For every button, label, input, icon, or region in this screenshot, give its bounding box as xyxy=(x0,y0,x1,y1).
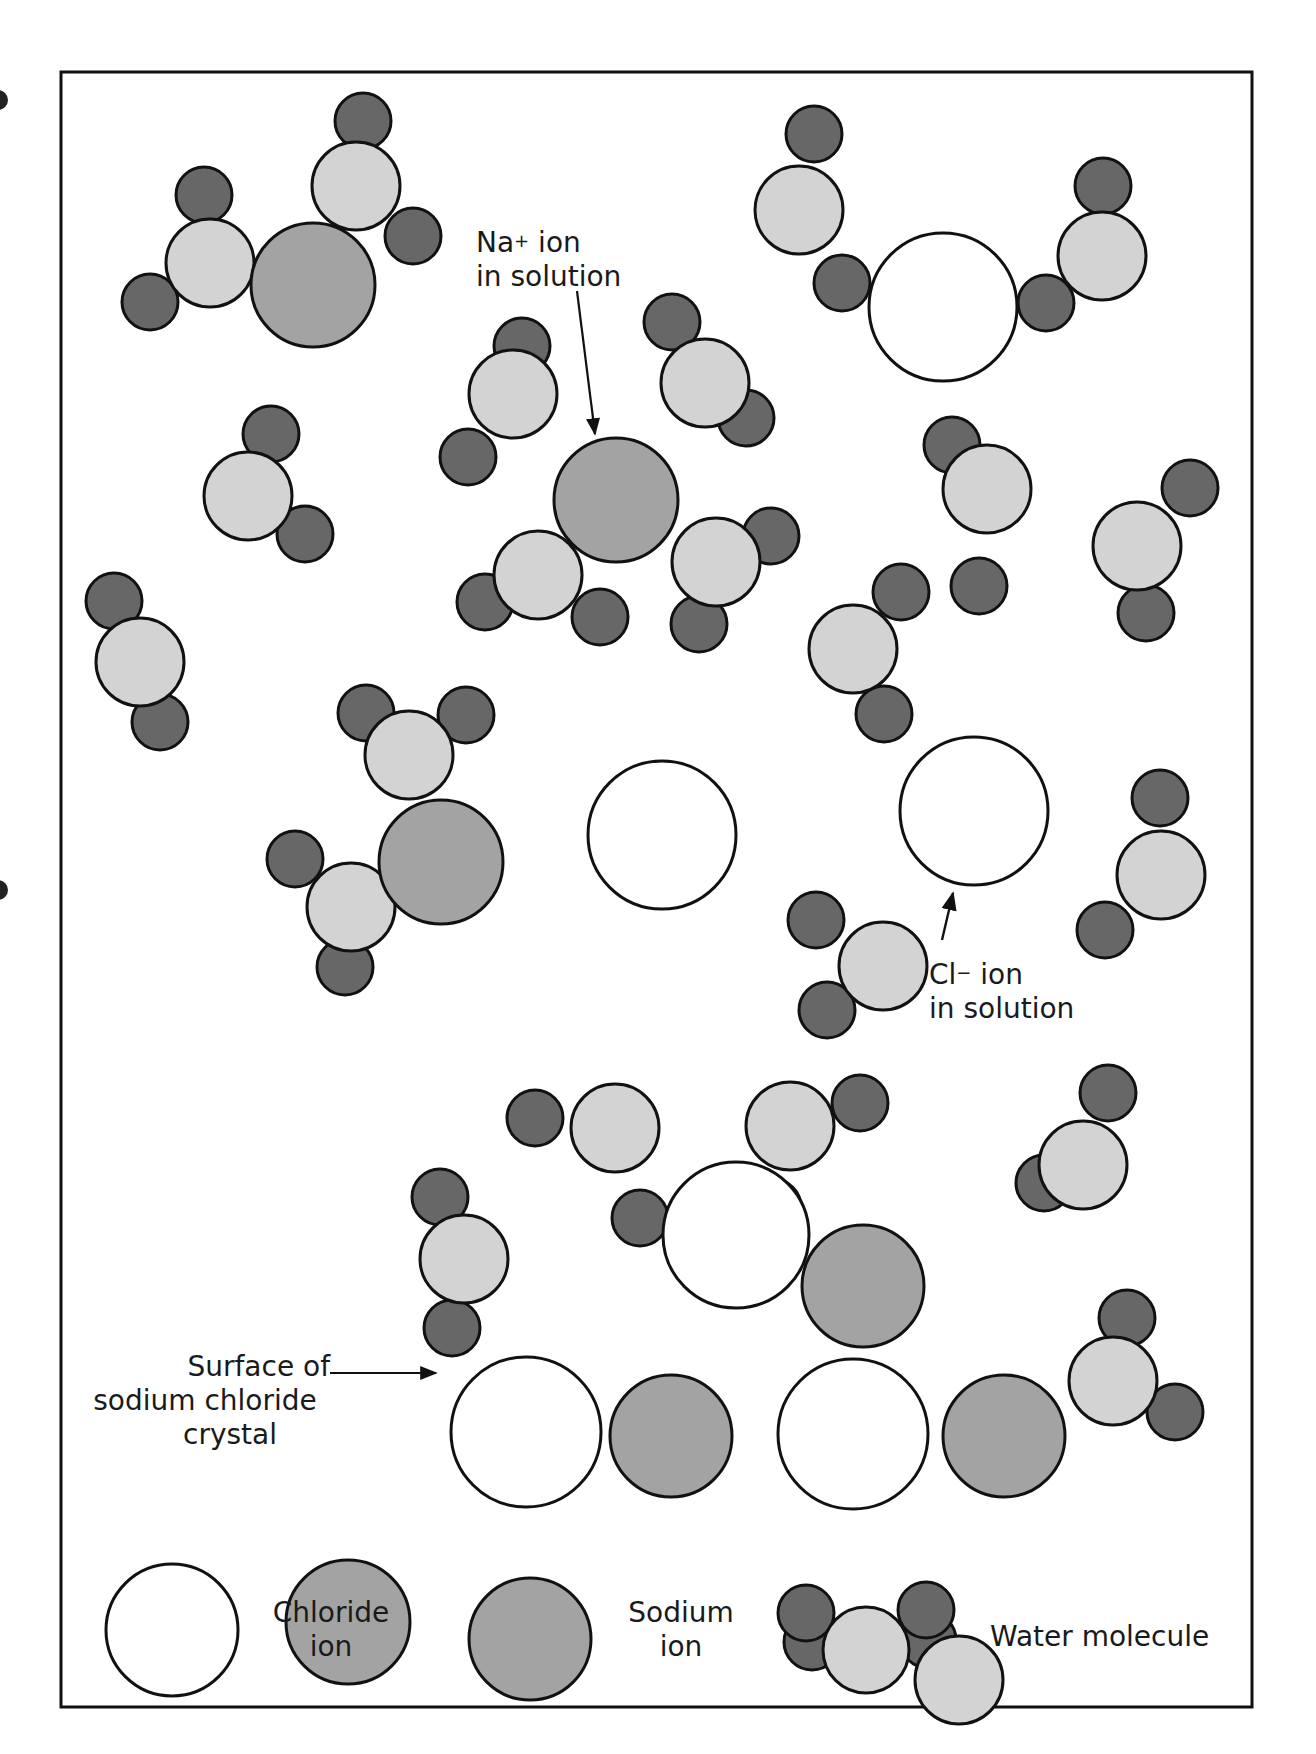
hydrogen-atom xyxy=(440,429,496,485)
hydrogen-atom xyxy=(788,892,844,948)
hydrogen-atom xyxy=(1075,158,1131,214)
chloride-ion xyxy=(869,233,1017,381)
nacl-dissolution-diagram xyxy=(0,0,1316,1754)
hydrogen-atom xyxy=(267,831,323,887)
hydrogen-atom xyxy=(1132,770,1188,826)
hydrogen-atom xyxy=(424,1300,480,1356)
na-ion-label: Na+ ion in solution xyxy=(476,226,621,294)
oxygen-atom xyxy=(494,531,582,619)
oxygen-atom xyxy=(571,1084,659,1172)
oxygen-atom xyxy=(204,452,292,540)
oxygen-atom xyxy=(1058,212,1146,300)
hydrogen-atom xyxy=(1118,585,1174,641)
oxygen-atom xyxy=(746,1082,834,1170)
hydrogen-atom xyxy=(1077,902,1133,958)
oxygen-atom xyxy=(96,618,184,706)
oxygen-atom xyxy=(661,339,749,427)
hydrogen-atom xyxy=(951,558,1007,614)
oxygen-atom xyxy=(1093,502,1181,590)
hydrogen-atom xyxy=(1162,460,1218,516)
hydrogen-atom xyxy=(832,1075,888,1131)
oxygen-atom xyxy=(469,350,557,438)
hydrogen-atom xyxy=(612,1190,668,1246)
oxygen-atom xyxy=(166,219,254,307)
crystal-surface-label: Surface of sodium chloride crystal xyxy=(130,1350,330,1452)
chloride-ion xyxy=(663,1162,809,1308)
oxygen-atom xyxy=(672,518,760,606)
hydrogen-atom xyxy=(1080,1065,1136,1121)
hydrogen-atom xyxy=(385,208,441,264)
oxygen-atom xyxy=(943,445,1031,533)
oxygen-atom xyxy=(1069,1337,1157,1425)
diagram-canvas: Na+ ion in solution Cl− ion in solution … xyxy=(0,0,1316,1754)
sodium-ion xyxy=(802,1225,924,1347)
cl-ion-arrow xyxy=(942,893,953,940)
hydrogen-atom xyxy=(786,106,842,162)
sodium-ion xyxy=(610,1375,732,1497)
hydrogen-atom xyxy=(176,167,232,223)
chloride-ion xyxy=(588,761,736,909)
hydrogen-atom xyxy=(873,564,929,620)
page-artifact-dot xyxy=(0,90,8,110)
oxygen-atom xyxy=(755,166,843,254)
hydrogen-atom xyxy=(507,1090,563,1146)
oxygen-atom xyxy=(1039,1121,1127,1209)
hydrogen-atom xyxy=(856,686,912,742)
sodium-ion xyxy=(251,223,375,347)
legend-chloride-icon xyxy=(106,1564,238,1696)
hydrogen-atom xyxy=(572,589,628,645)
sodium-ion xyxy=(379,800,503,924)
chloride-ion xyxy=(778,1359,928,1509)
hydrogen-atom xyxy=(335,93,391,149)
legend-chloride-label: Chloride ion xyxy=(266,1596,396,1664)
oxygen-atom xyxy=(312,142,400,230)
na-ion-arrow xyxy=(577,291,595,434)
cl-ion-label: Cl− ion in solution xyxy=(929,958,1074,1026)
legend-sodium-icon xyxy=(469,1578,591,1700)
oxygen-atom xyxy=(365,711,453,799)
hydrogen-atom xyxy=(1018,275,1074,331)
legend-sodium-label: Sodium ion xyxy=(621,1596,741,1664)
sodium-ion xyxy=(943,1375,1065,1497)
oxygen-atom xyxy=(809,605,897,693)
oxygen-atom xyxy=(839,922,927,1010)
chloride-ion xyxy=(900,737,1048,885)
hydrogen-atom xyxy=(814,255,870,311)
oxygen-atom xyxy=(1117,831,1205,919)
sodium-ion xyxy=(554,438,678,562)
page-artifact-dot xyxy=(0,880,8,900)
chloride-ion xyxy=(451,1357,601,1507)
legend-water-label: Water molecule xyxy=(990,1620,1209,1654)
oxygen-atom xyxy=(420,1215,508,1303)
